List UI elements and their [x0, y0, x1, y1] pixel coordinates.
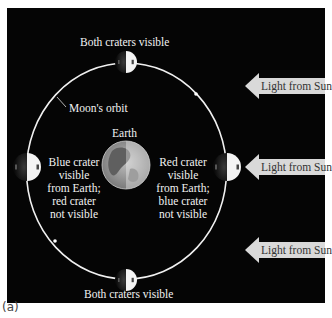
arrow-left-icon [245, 154, 259, 180]
left-moon-description: Blue crater visible from Earth; red crat… [44, 156, 104, 221]
sunlight-arrow: Light from Sun [245, 73, 325, 99]
sunlight-label: Light from Sun [261, 78, 332, 94]
moon-top [115, 51, 137, 73]
orbit-direction-marker [53, 239, 57, 243]
arrow-left-icon [245, 73, 259, 99]
figure-caption: (a) [2, 300, 19, 314]
arrow-left-icon [245, 237, 259, 263]
sunlight-arrow: Light from Sun [245, 154, 325, 180]
moon-left [13, 153, 41, 181]
top-moon-label: Both craters visible [80, 36, 169, 49]
bottom-moon-label: Both craters visible [84, 288, 173, 301]
orbit-pointer-line [57, 97, 66, 107]
sunlight-arrow: Light from Sun [245, 237, 325, 263]
orbit-label: Moon's orbit [69, 102, 128, 115]
moon-right [213, 153, 241, 181]
right-moon-description: Red crater visible from Earth; blue crat… [152, 156, 214, 221]
orbit-direction-marker [194, 92, 198, 96]
earth-label: Earth [112, 127, 137, 140]
earth-globe [102, 141, 150, 189]
sunlight-label: Light from Sun [261, 159, 332, 175]
sunlight-label: Light from Sun [261, 242, 332, 258]
